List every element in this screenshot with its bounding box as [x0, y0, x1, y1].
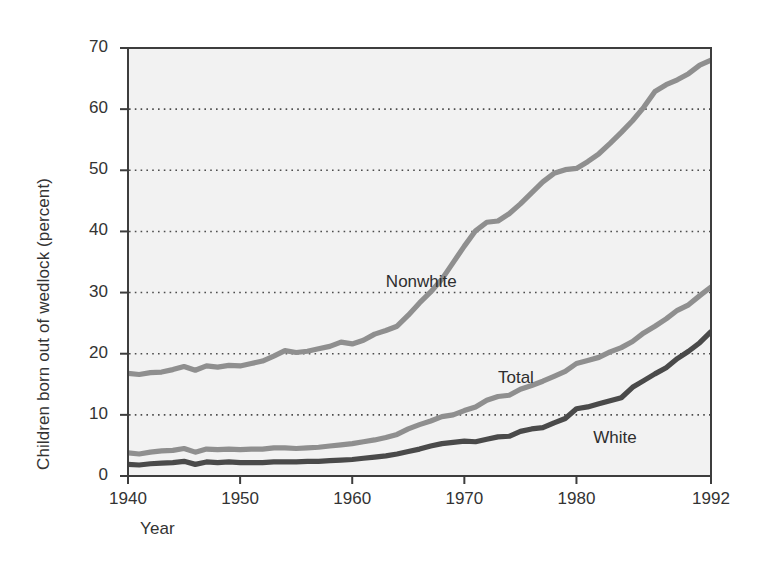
y-tick-label: 0 — [64, 465, 108, 485]
y-tick-label: 70 — [64, 37, 108, 57]
y-tick-label: 10 — [64, 404, 108, 424]
x-tick-label: 1960 — [317, 489, 387, 509]
x-tick-label: 1992 — [676, 489, 746, 509]
x-tick-label: 1980 — [541, 489, 611, 509]
y-tick-label: 60 — [64, 98, 108, 118]
chart-figure: Children born out of wedlock (percent) Y… — [0, 0, 764, 577]
x-tick-label: 1970 — [429, 489, 499, 509]
y-tick-label: 50 — [64, 159, 108, 179]
x-tick-label: 1940 — [93, 489, 163, 509]
x-axis-title: Year — [140, 519, 175, 539]
plot-background — [128, 48, 711, 476]
series-label-nonwhite: Nonwhite — [386, 272, 457, 292]
series-label-total: Total — [498, 368, 534, 388]
y-tick-label: 40 — [64, 220, 108, 240]
y-tick-label: 20 — [64, 343, 108, 363]
x-tick-label: 1950 — [205, 489, 275, 509]
y-axis-title: Children born out of wedlock (percent) — [34, 178, 54, 470]
series-label-white: White — [593, 428, 636, 448]
y-tick-label: 30 — [64, 282, 108, 302]
